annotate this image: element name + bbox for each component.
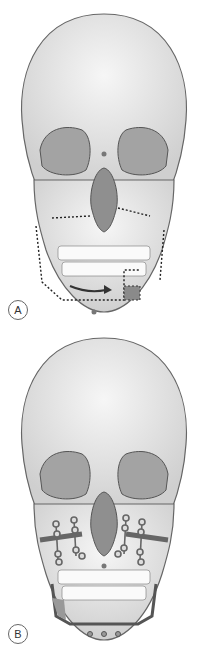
panel-label-a: A [8,300,28,320]
skull-illustration-a [0,0,208,328]
panel-b: B [0,328,208,656]
panel-a: A [0,0,208,328]
skull-illustration-b [0,328,208,656]
panel-label-b: B [8,624,28,644]
